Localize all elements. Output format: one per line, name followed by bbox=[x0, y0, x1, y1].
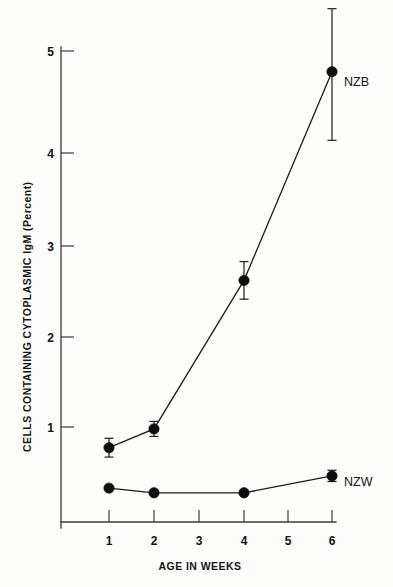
x-axis-tick-labels: 1 2 3 4 5 6 bbox=[106, 534, 336, 548]
y-tick-label-4: 4 bbox=[47, 147, 54, 161]
y-tick-label-5: 5 bbox=[47, 45, 54, 59]
series-label-nzw: NZW bbox=[344, 475, 373, 489]
data-point-nzb-week2 bbox=[149, 424, 159, 434]
y-tick-label-3: 3 bbox=[47, 240, 54, 254]
y-axis-tick-labels: 5 4 3 2 1 bbox=[47, 45, 54, 435]
x-axis-ticks bbox=[109, 510, 332, 522]
series-labels: NZB NZW bbox=[344, 75, 373, 489]
series-layer bbox=[104, 9, 337, 498]
x-tick-label-5: 5 bbox=[285, 534, 292, 548]
x-axis-title-group: AGE IN WEEKS bbox=[159, 560, 242, 572]
data-point-nzb-week6 bbox=[327, 66, 337, 76]
y-axis-title: CELLS CONTAINING CYTOPLASMIC IgM (Percen… bbox=[21, 181, 33, 452]
data-point-nzb-week1 bbox=[104, 442, 114, 452]
data-point-nzw-week1 bbox=[104, 483, 114, 493]
chart-canvas: CELLS CONTAINING CYTOPLASMIC IgM (Percen… bbox=[0, 0, 393, 587]
x-tick-label-6: 6 bbox=[329, 534, 336, 548]
data-line-nzb bbox=[109, 72, 332, 448]
series-label-nzb: NZB bbox=[344, 75, 369, 89]
data-point-nzw-week6 bbox=[327, 471, 337, 481]
y-axis-ticks bbox=[61, 51, 74, 427]
x-tick-label-4: 4 bbox=[241, 534, 248, 548]
x-axis-title: AGE IN WEEKS bbox=[159, 560, 242, 572]
y-tick-label-2: 2 bbox=[47, 331, 54, 345]
x-tick-label-1: 1 bbox=[106, 534, 113, 548]
y-tick-label-1: 1 bbox=[47, 421, 54, 435]
x-tick-label-2: 2 bbox=[151, 534, 158, 548]
x-tick-label-3: 3 bbox=[196, 534, 203, 548]
axes-group bbox=[61, 47, 336, 528]
data-point-nzb-week4 bbox=[239, 275, 249, 285]
series-nzw bbox=[104, 470, 337, 498]
y-axis-title-group: CELLS CONTAINING CYTOPLASMIC IgM (Percen… bbox=[21, 181, 33, 452]
figure-container: CELLS CONTAINING CYTOPLASMIC IgM (Percen… bbox=[0, 0, 393, 587]
data-line-nzw bbox=[109, 476, 332, 493]
data-point-nzw-week4 bbox=[239, 488, 249, 498]
data-point-nzw-week2 bbox=[149, 488, 159, 498]
series-nzb bbox=[104, 9, 337, 457]
